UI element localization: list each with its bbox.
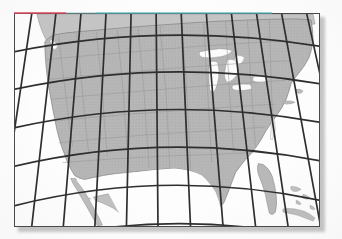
lake-erie bbox=[232, 84, 252, 91]
map-canvas bbox=[15, 14, 319, 226]
map-figure-root bbox=[0, 0, 342, 239]
map-plate bbox=[14, 13, 320, 227]
